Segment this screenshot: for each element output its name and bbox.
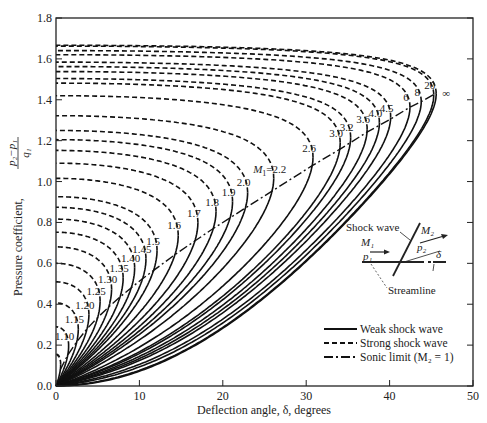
strong-shock-curve: [56, 79, 351, 138]
strong-shock-curve: [56, 45, 436, 93]
inset-p2-label: p₂: [416, 241, 427, 253]
y-tick-label: 0.8: [37, 215, 52, 229]
y-axis-label-numerator: p₂−p₁: [5, 140, 17, 167]
inset-m1-arrowhead-icon: [384, 250, 390, 255]
strong-shock-curve: [56, 150, 216, 211]
x-tick-label: 20: [217, 389, 229, 403]
y-tick-label: 0.4: [37, 297, 52, 311]
inset-delta-label: δ: [436, 248, 442, 260]
mach-curve-label: 1.15: [65, 313, 85, 325]
weak-shock-curve: [56, 123, 379, 386]
x-tick-label: 50: [467, 389, 479, 403]
inset-m2-arrowhead-icon: [441, 234, 448, 239]
mach-curve-label: M1=2.2: [252, 163, 286, 178]
strong-shock-curve: [56, 354, 61, 364]
y-tick-label: 0.2: [37, 338, 52, 352]
x-tick-label: 10: [133, 389, 145, 403]
legend-sonic-label: Sonic limit (M₂ = 1): [360, 351, 454, 364]
strong-shock-curve: [56, 178, 178, 235]
legend-weak-label: Weak shock wave: [360, 323, 443, 335]
mach-curve-label: 1.9: [222, 186, 236, 198]
mach-curve-label: 2.6: [302, 142, 316, 154]
x-tick-label: 30: [300, 389, 312, 403]
mach-curve-label: 1.30: [98, 273, 118, 285]
x-axis-label: Deflection angle, δ, degrees: [197, 403, 331, 417]
mach-curve-label: 1.10: [55, 330, 75, 342]
y-tick-label: 1.4: [37, 93, 52, 107]
mach-curve-label: 1.7: [187, 207, 201, 219]
inset-m2-label: M₂: [420, 224, 434, 236]
legend: Weak shock wave Strong shock wave Sonic …: [324, 323, 454, 364]
mach-curve-label: 20: [424, 79, 436, 91]
pressure-coefficient-chart: 1.101.151.201.251.301.351.401.451.51.61.…: [0, 0, 487, 423]
shock-inset-diagram: Shock wave M₁ p₁ M₂ p₂ δ Streamline: [346, 221, 448, 296]
strong-shock-curve: [56, 163, 198, 223]
strong-shock-curve: [56, 130, 248, 192]
strong-shock-curve: [56, 67, 379, 123]
strong-shock-curve: [56, 116, 274, 179]
inset-m1-label: M₁: [360, 236, 374, 248]
y-tick-label: 1.2: [37, 134, 52, 148]
weak-shock-curve: [56, 129, 367, 386]
strong-shock-curve: [56, 96, 313, 158]
y-tick-label: 1.8: [37, 11, 52, 25]
y-tick-label: 0.6: [37, 256, 52, 270]
inset-shock-wave-pointer: [400, 232, 410, 240]
y-axis-label-prefix: Pressure coefficient,: [11, 198, 25, 296]
inset-p1-label: p₁: [362, 250, 373, 262]
y-tick-label: 1.0: [37, 175, 52, 189]
inset-delta-arrow: [433, 264, 434, 271]
inset-streamline-leader: [371, 264, 387, 288]
mach-curve-label: ∞: [442, 87, 450, 99]
strong-shock-curve: [56, 72, 367, 130]
strong-shock-curve: [56, 83, 340, 142]
x-tick-label: 40: [384, 389, 396, 403]
mach-curve-label: 4.5: [380, 102, 394, 114]
mach-curve-label: 1.20: [75, 299, 95, 311]
mach-curve-label: 1.25: [86, 285, 106, 297]
mach-curve-label: 8: [414, 86, 420, 98]
mach-curve-label: 2.0: [237, 176, 251, 188]
mach-curve-label: 6: [403, 91, 409, 103]
inset-streamline-label: Streamline: [388, 284, 436, 296]
x-tick-label: 0: [53, 389, 59, 403]
mach-curve-label: 3.2: [340, 121, 354, 133]
y-axis-label: Pressure coefficient, p₂−p₁ q₁: [5, 137, 31, 296]
y-tick-label: 0.0: [37, 379, 52, 393]
mach-curve-label: 1.8: [205, 196, 219, 208]
mach-curve-label: 1.5: [146, 235, 160, 247]
inset-shock-wave-label: Shock wave: [346, 221, 400, 233]
legend-strong-label: Strong shock wave: [360, 337, 448, 350]
y-tick-label: 1.6: [37, 52, 52, 66]
mach-curve-label: 1.6: [167, 219, 181, 231]
y-axis-label-denominator: q₁: [19, 148, 31, 158]
